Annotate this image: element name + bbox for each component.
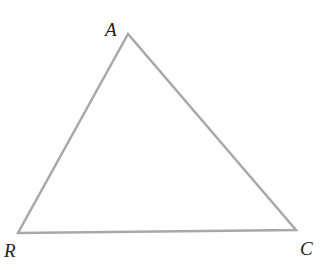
triangle-arc [18,34,296,233]
vertex-label-c: C [300,238,313,259]
vertex-label-r: R [3,240,16,261]
triangle-diagram: A R C [0,0,321,270]
vertex-label-a: A [103,19,117,40]
